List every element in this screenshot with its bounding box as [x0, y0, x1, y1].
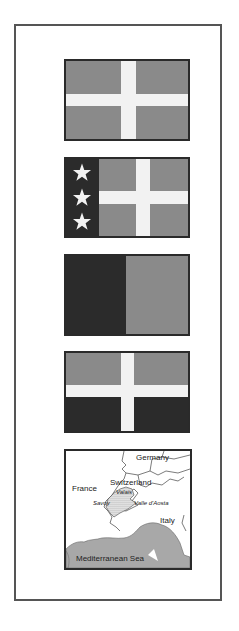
map-label-italy: Italy: [160, 517, 175, 525]
flag-3-bicolor: [64, 254, 190, 336]
region-map: Germany France Switzerland Valais Savoy …: [64, 449, 192, 570]
map-label-aosta: Valle d'Aosta: [134, 500, 169, 506]
map-label-savoy: Savoy: [93, 500, 110, 506]
map-label-france: France: [72, 485, 97, 493]
map-icon: [66, 451, 190, 568]
cross-flag-icon: [66, 61, 188, 139]
three-stars-cross-flag-icon: [66, 159, 188, 236]
map-label-switzerland: Switzerland: [110, 479, 151, 487]
cross-bicolor-flag-icon: [66, 353, 188, 431]
flag-2-stars-cross: [64, 157, 190, 238]
map-label-germany: Germany: [136, 454, 169, 462]
flag-4-cross-bicolor: [64, 351, 190, 433]
flag-1-cross: [64, 59, 190, 141]
map-label-sea: Mediterranean Sea: [76, 555, 144, 563]
bicolor-flag-icon: [66, 256, 188, 334]
map-label-valais: Valais: [116, 489, 132, 495]
